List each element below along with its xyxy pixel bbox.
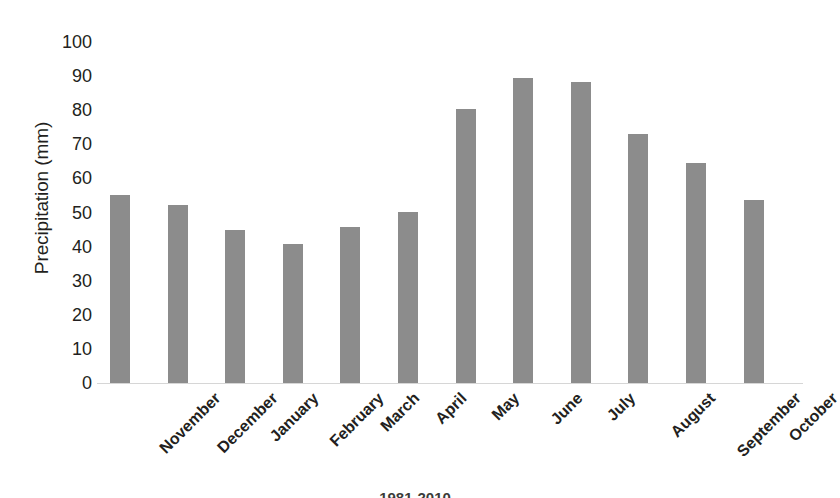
- bar: [513, 78, 533, 383]
- y-axis-tick: 0: [48, 374, 92, 392]
- x-axis-tick: November: [157, 390, 224, 457]
- bar: [571, 82, 591, 383]
- bar: [628, 134, 648, 383]
- x-axis-tick: March: [378, 390, 423, 435]
- y-axis-tick: 40: [48, 238, 92, 256]
- bar: [168, 205, 188, 383]
- figure-caption: 1981-2010: [0, 489, 830, 498]
- x-axis-tick-labels: NovemberDecemberJanuaryFebruaryMarchApri…: [99, 383, 799, 498]
- x-axis-tick: December: [214, 390, 280, 456]
- x-axis-tick: May: [489, 390, 522, 423]
- y-axis-tick: 100: [48, 33, 92, 51]
- bar: [340, 227, 360, 383]
- y-axis-tick: 30: [48, 272, 92, 290]
- bar: [744, 200, 764, 383]
- bar: [110, 195, 130, 383]
- y-axis-tick: 60: [48, 169, 92, 187]
- x-axis-tick: July: [604, 390, 638, 424]
- y-axis-tick: 90: [48, 67, 92, 85]
- y-axis-tick-labels: 1009080706050403020100: [48, 0, 92, 498]
- y-axis-tick: 10: [48, 340, 92, 358]
- y-axis-tick: 50: [48, 204, 92, 222]
- y-axis-tick: 80: [48, 101, 92, 119]
- bar: [283, 244, 303, 383]
- x-axis-tick: April: [433, 390, 470, 427]
- bar: [686, 163, 706, 383]
- x-axis-tick: June: [548, 390, 586, 428]
- x-axis-tick: August: [669, 390, 719, 440]
- y-axis-tick: 70: [48, 135, 92, 153]
- bar: [398, 212, 418, 383]
- y-axis-tick: 20: [48, 306, 92, 324]
- x-axis-tick: February: [327, 390, 387, 450]
- plot-area: [99, 42, 799, 383]
- bar: [225, 230, 245, 383]
- bar: [456, 109, 476, 384]
